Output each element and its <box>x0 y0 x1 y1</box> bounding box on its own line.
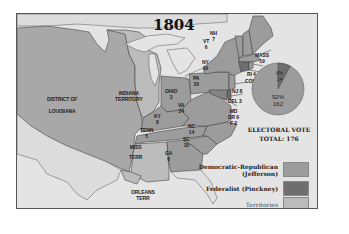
label-mississippi: MISS TERR <box>129 144 142 160</box>
label-line: DISTRICT OF <box>47 96 77 102</box>
legend-text: Federalist (Pinckney) <box>206 185 278 192</box>
label-georgia: GA 6 <box>165 150 172 162</box>
legend-democratic-republican: Democratic-Republican (Jefferson) <box>199 162 309 177</box>
label-line: 6 <box>165 156 172 162</box>
label-line: 3 <box>165 94 177 100</box>
pie-slice-federalist: 8% 14 <box>276 70 283 82</box>
label-new-hampshire: NH 7 <box>210 30 217 42</box>
map-frame: 1804 DISTRICT OF LOUISIANA INDIANA TERRI… <box>16 13 318 209</box>
slice-votes: 14 <box>276 76 283 82</box>
legend-label: Democratic-Republican (Jefferson) <box>199 163 278 177</box>
label-pennsylvania: PA 20 <box>193 75 199 87</box>
legend-swatch-federalist <box>283 181 309 196</box>
label-virginia: VA 24 <box>178 102 184 114</box>
label-delaware: DEL 3 <box>228 98 242 104</box>
slice-votes: 162 <box>267 101 289 108</box>
label-line: 24 <box>178 108 184 114</box>
map-title: 1804 <box>153 16 195 34</box>
label-line: 10 <box>183 142 190 148</box>
label-line: DEL 3 <box>228 98 242 104</box>
label-line: TERR <box>129 154 142 160</box>
pie-slice-democratic-republican: 92% 162 <box>267 94 289 108</box>
legend-swatch-territories <box>283 197 309 209</box>
label-louisiana: DISTRICT OF LOUISIANA <box>47 96 77 114</box>
label-line: NJ 8 <box>232 88 242 94</box>
label-new-jersey: NJ 8 <box>232 88 242 94</box>
ev-total: TOTAL: 176 <box>239 134 318 143</box>
label-line: 7 <box>210 36 217 42</box>
label-maryland: MD DR 9 F 2 <box>228 108 239 126</box>
legend-territories: Territories <box>246 197 309 209</box>
label-orleans: ORLEANS TERR <box>131 189 155 201</box>
electoral-vote-total: ELECTORAL VOTE TOTAL: 176 <box>239 125 318 143</box>
label-line: TERR <box>131 195 155 201</box>
label-new-york: NY 19 <box>202 59 209 71</box>
label-line: LOUISIANA <box>47 108 77 114</box>
label-south-carolina: SC 10 <box>183 136 190 148</box>
label-vermont: VT 6 <box>203 38 209 50</box>
label-tennessee: TENN 5 <box>140 127 153 139</box>
label-line: 8 <box>154 119 161 125</box>
legend-text: Territories <box>246 201 278 208</box>
legend-text: Democratic-Republican <box>199 163 278 170</box>
slice-percent: 92% <box>267 94 289 101</box>
legend-swatch-democratic-republican <box>283 162 309 177</box>
label-line: 5 <box>140 133 153 139</box>
label-line: 14 <box>188 129 195 135</box>
label-line: TERRITORY <box>115 96 143 102</box>
legend-text: (Jefferson) <box>199 170 278 177</box>
electoral-pie-chart: 8% 14 92% 162 <box>251 62 305 116</box>
label-indiana: INDIANA TERRITORY <box>115 90 143 102</box>
label-line: MISS <box>129 144 142 150</box>
legend-federalist: Federalist (Pinckney) <box>206 181 309 196</box>
label-line: 19 <box>202 65 209 71</box>
label-kentucky: KY 8 <box>154 113 161 125</box>
label-line: F 2 <box>228 120 239 126</box>
label-north-carolina: NC 14 <box>188 123 195 135</box>
label-line: 20 <box>193 81 199 87</box>
ev-heading: ELECTORAL VOTE <box>239 125 318 134</box>
label-line: 6 <box>203 44 209 50</box>
label-ohio: OHIO 3 <box>165 88 177 100</box>
